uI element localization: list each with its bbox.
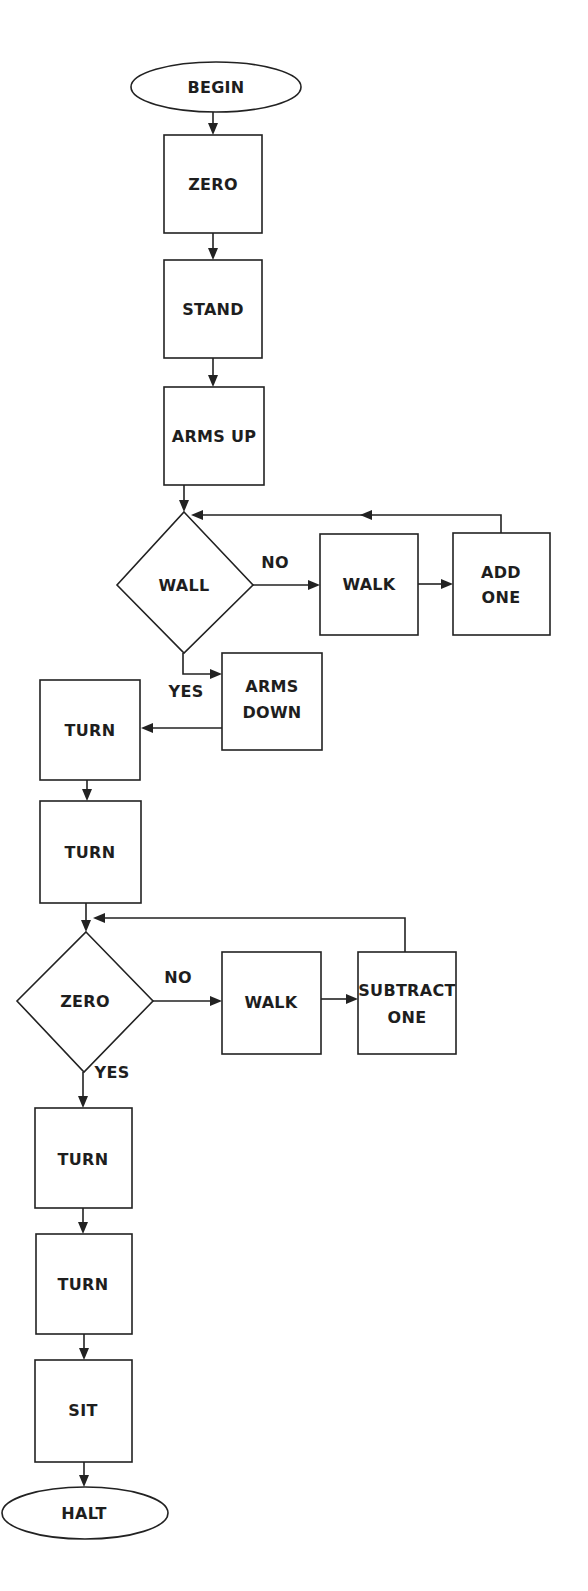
subtract-one-label-line2: ONE — [388, 1008, 427, 1027]
arrow-zero-no-to-walk: NO — [153, 968, 222, 1006]
zero-process-box: ZERO — [164, 135, 262, 233]
turn-process-box-4: TURN — [36, 1234, 132, 1334]
halt-terminal: HALT — [2, 1487, 168, 1539]
walk-process-box-1: WALK — [320, 534, 418, 635]
sit-label: SIT — [68, 1401, 97, 1420]
arrow-stand-to-arms-up — [208, 358, 218, 387]
arrow-wall-yes-to-arms-down: YES — [168, 653, 222, 701]
add-one-label-line2: ONE — [482, 588, 521, 607]
subtract-one-process-box: SUBTRACT ONE — [358, 952, 456, 1054]
halt-label: HALT — [61, 1504, 106, 1523]
arrow-begin-to-zero — [208, 112, 218, 135]
turn-process-box-3: TURN — [35, 1108, 132, 1208]
zero-box-label: ZERO — [188, 175, 238, 194]
walk-2-label: WALK — [244, 993, 297, 1012]
arrow-walk-to-add-one — [418, 579, 453, 589]
arrow-wall-no-to-walk: NO — [253, 553, 320, 590]
stand-label: STAND — [182, 300, 244, 319]
arrow-turn1-to-turn2 — [82, 780, 92, 801]
zero-decision-label: ZERO — [60, 992, 110, 1011]
add-one-label-line1: ADD — [481, 563, 521, 582]
wall-decision-diamond: WALL — [117, 512, 253, 653]
arrow-arms-down-to-turn — [141, 723, 222, 733]
arrow-subtract-one-loop-to-zero — [93, 913, 405, 952]
arrow-zero-to-stand — [208, 233, 218, 260]
arrow-walk-to-subtract-one — [321, 994, 358, 1004]
arrow-turn3-to-turn4 — [78, 1208, 88, 1234]
add-one-process-box: ADD ONE — [453, 533, 550, 635]
arrow-arms-up-to-wall — [179, 485, 189, 512]
arrow-turn2-to-zero-decision — [81, 903, 91, 932]
wall-no-label: NO — [261, 553, 289, 572]
arms-up-process-box: ARMS UP — [164, 387, 264, 485]
arms-down-process-box: ARMS DOWN — [222, 653, 322, 750]
zero-no-label: NO — [164, 968, 192, 987]
begin-terminal: BEGIN — [131, 62, 301, 112]
arrow-add-one-loop-to-wall — [191, 510, 501, 533]
subtract-one-label-line1: SUBTRACT — [358, 981, 455, 1000]
arms-down-label-line1: ARMS — [245, 677, 298, 696]
zero-decision-diamond: ZERO — [17, 932, 153, 1072]
walk-1-label: WALK — [342, 575, 395, 594]
arms-down-label-line2: DOWN — [242, 703, 301, 722]
turn-1-label: TURN — [65, 721, 116, 740]
walk-process-box-2: WALK — [222, 952, 321, 1054]
arrow-sit-to-halt — [79, 1462, 89, 1487]
sit-process-box: SIT — [35, 1360, 132, 1462]
turn-process-box-1: TURN — [40, 680, 140, 780]
turn-3-label: TURN — [58, 1150, 109, 1169]
turn-4-label: TURN — [58, 1275, 109, 1294]
turn-process-box-2: TURN — [40, 801, 141, 903]
arms-up-label: ARMS UP — [172, 427, 257, 446]
arrow-turn4-to-sit — [79, 1334, 89, 1360]
zero-yes-label: YES — [94, 1063, 130, 1082]
wall-yes-label: YES — [168, 682, 204, 701]
stand-process-box: STAND — [164, 260, 262, 358]
flowchart: BEGIN ZERO STAND ARMS UP WALL NO — [0, 0, 588, 1591]
wall-decision-label: WALL — [159, 576, 210, 595]
begin-label: BEGIN — [187, 78, 244, 97]
turn-2-label: TURN — [65, 843, 116, 862]
